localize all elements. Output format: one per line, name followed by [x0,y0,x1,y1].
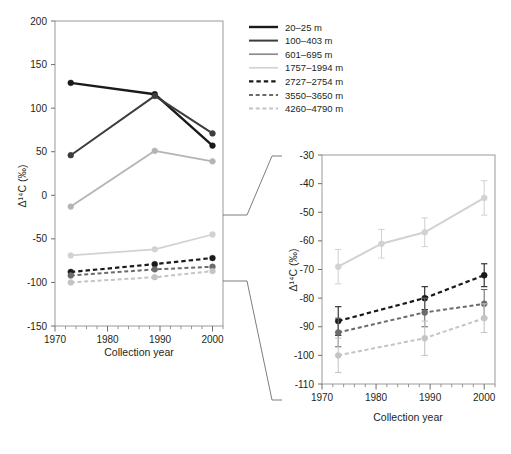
inset-plot-frame [322,155,495,384]
inset-x-axis-ticks: 1970198019902000 [311,384,496,403]
y-tick-label: 0 [41,190,47,201]
y-tick-label: 150 [30,59,47,70]
series-0 [68,80,216,149]
x-tick-label: 1990 [149,334,172,345]
data-point-marker [152,274,158,280]
figure-svg: 200150100500-50-100-150 1970198019902000… [0,0,511,454]
legend-item-label: 2727–2754 m [285,76,343,87]
series-line [71,258,213,272]
data-point-marker [210,143,216,149]
y-tick-label: -70 [300,264,315,275]
series-2 [68,148,216,210]
series-4 [68,255,216,275]
series-line [71,151,213,207]
x-tick-label: 1970 [311,392,334,403]
legend-item-label: 601–695 m [285,49,333,60]
data-point-marker [152,148,158,154]
series-line [338,198,484,267]
y-tick-label: -110 [295,379,315,390]
main-y-axis-title: Δ¹⁴C (‰) [16,164,28,207]
data-point-marker [210,131,216,137]
data-point-marker [422,335,428,341]
legend-item-label: 20–25 m [285,22,322,33]
series-3 [335,304,487,373]
y-tick-label: -40 [300,178,315,189]
data-point-marker [210,232,216,238]
series-line [338,304,484,333]
data-point-marker [481,315,487,321]
x-tick-label: 1970 [44,334,67,345]
data-point-marker [335,264,341,270]
data-point-marker [335,352,341,358]
data-point-marker [335,329,341,335]
series-3 [68,232,216,259]
legend-item-label: 100–403 m [285,35,333,46]
y-tick-label: -100 [294,350,314,361]
y-tick-label: -80 [300,293,315,304]
data-point-marker [210,268,216,274]
figure-container: 200150100500-50-100-150 1970198019902000… [0,0,511,454]
data-point-marker [68,253,74,259]
series-line [71,271,213,282]
y-tick-label: -150 [27,321,47,332]
data-point-marker [210,158,216,164]
legend-item-label: 3550–3650 m [285,90,343,101]
data-point-marker [378,241,384,247]
y-tick-label: -50 [33,233,48,244]
series-line [338,275,484,321]
legend-item-label: 4260–4790 m [285,103,343,114]
y-tick-label: -90 [300,321,315,332]
legend-item-label: 1757–1994 m [285,62,343,73]
y-tick-label: -60 [300,235,315,246]
main-panel: 200150100500-50-100-150 1970198019902000… [16,16,224,358]
x-tick-label: 1980 [96,334,119,345]
y-tick-label: -100 [27,277,47,288]
y-tick-label: 50 [36,146,48,157]
x-tick-label: 2000 [201,334,224,345]
inset-series-group [335,181,487,373]
data-point-marker [152,261,158,267]
main-plot-frame [55,21,223,326]
data-point-marker [68,204,74,210]
inset-panel: -30-40-50-60-70-80-90-100-110 1970198019… [287,150,496,423]
data-point-marker [68,152,74,158]
series-0 [335,181,487,284]
y-tick-label: 100 [30,103,47,114]
series-line [71,235,213,256]
inset-y-axis-title: Δ¹⁴C (‰) [287,248,299,291]
connector-lower [223,281,282,400]
series-line [71,83,213,146]
main-series-group [68,80,216,285]
x-tick-label: 2000 [473,392,496,403]
zoom-connector-lines [223,156,282,400]
legend: 20–25 m100–403 m601–695 m1757–1994 m2727… [249,22,343,115]
x-tick-label: 1980 [365,392,388,403]
inset-x-axis-title: Collection year [373,411,443,423]
x-tick-label: 1990 [419,392,442,403]
data-point-marker [68,80,74,86]
series-line [338,318,484,355]
data-point-marker [152,246,158,252]
data-point-marker [481,195,487,201]
main-x-axis-ticks: 1970198019902000 [44,326,224,345]
data-point-marker [68,280,74,286]
y-tick-label: -50 [300,207,315,218]
main-x-axis-title: Collection year [104,346,174,358]
data-point-marker [422,229,428,235]
data-point-marker [481,272,487,278]
data-point-marker [68,273,74,279]
series-2 [335,290,487,347]
data-point-marker [422,309,428,315]
main-y-axis-ticks: 200150100500-50-100-150 [27,16,55,332]
data-point-marker [152,266,158,272]
data-point-marker [210,255,216,261]
data-point-marker [152,93,158,99]
y-tick-label: -30 [300,150,315,161]
connector-upper [223,156,282,215]
y-tick-label: 200 [30,16,47,27]
series-1 [68,93,216,158]
